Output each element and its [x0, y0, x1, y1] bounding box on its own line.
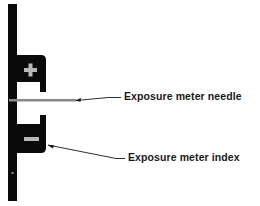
scale-dot — [12, 172, 14, 174]
index-callout-label: Exposure meter index — [128, 151, 240, 163]
minus-icon — [24, 137, 39, 141]
needle-leader-line — [76, 98, 121, 101]
exposure-meter-diagram: Exposure meter needle Exposure meter ind… — [0, 0, 260, 206]
minus-index-tab — [17, 115, 46, 153]
index-arrowhead-icon — [48, 145, 55, 149]
meter-scale-bar — [8, 4, 17, 201]
exposure-meter-needle — [9, 99, 76, 102]
index-leader-line — [48, 145, 125, 159]
exposure-meter-graphic — [0, 0, 260, 206]
needle-callout-label: Exposure meter needle — [124, 90, 242, 102]
